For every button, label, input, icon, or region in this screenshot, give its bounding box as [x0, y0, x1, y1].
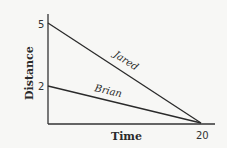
brian-label: Brian: [93, 82, 123, 99]
jared-label: Jared: [110, 47, 140, 72]
brian-line: [48, 86, 201, 123]
y-axis-title: Distance: [23, 46, 36, 100]
jared-line: [48, 23, 201, 123]
y-tick-2: 2: [38, 81, 44, 92]
x-tick-20: 20: [196, 130, 209, 141]
y-tick-5: 5: [38, 19, 44, 30]
distance-time-chart: 5 2 20 Time Distance Jared Brian: [0, 0, 227, 148]
x-axis-title: Time: [111, 130, 142, 143]
